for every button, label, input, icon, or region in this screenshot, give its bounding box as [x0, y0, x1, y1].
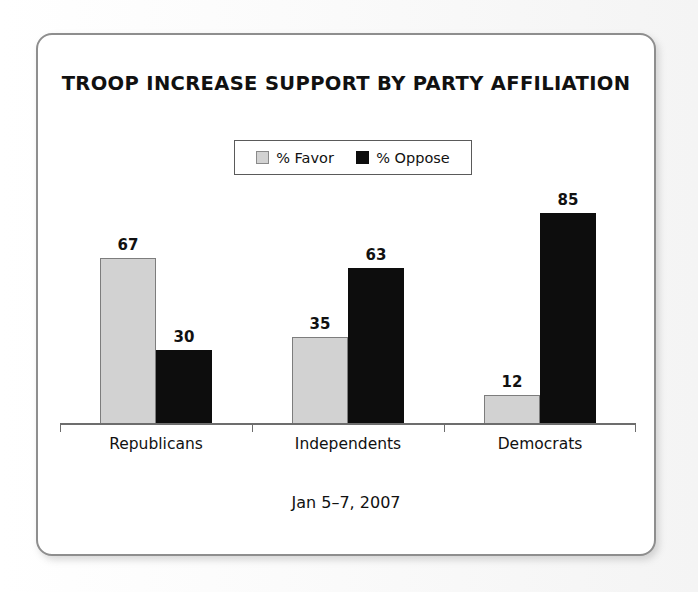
- bar-independents-oppose: 63: [348, 185, 404, 425]
- legend-swatch-oppose-icon: [356, 151, 369, 164]
- bar-group-republicans: 67 30: [60, 185, 252, 425]
- bar-rect-favor: [484, 395, 540, 425]
- category-label-independents: Independents: [252, 435, 444, 453]
- chart-card-frame: TROOP INCREASE SUPPORT BY PARTY AFFILIAT…: [36, 33, 656, 556]
- legend-label-oppose: % Oppose: [376, 150, 450, 166]
- legend-swatch-favor-icon: [256, 151, 269, 164]
- bar-rect-oppose: [156, 350, 212, 425]
- chart-date-footnote: Jan 5–7, 2007: [38, 493, 654, 512]
- bar-value-label: 85: [558, 193, 579, 208]
- bar-value-label: 30: [174, 330, 195, 345]
- bar-rect-oppose: [540, 213, 596, 425]
- bar-rect-favor: [100, 258, 156, 425]
- axis-tick-1: [252, 424, 253, 432]
- chart-legend: % Favor % Oppose: [234, 140, 472, 175]
- bar-rect-favor: [292, 337, 348, 425]
- bar-republicans-oppose: 30: [156, 185, 212, 425]
- bar-value-label: 35: [310, 317, 331, 332]
- axis-tick-2: [444, 424, 445, 432]
- bar-republicans-favor: 67: [100, 185, 156, 425]
- plot-area: 67 30 35 63: [60, 185, 636, 425]
- bar-groups: 67 30 35 63: [60, 185, 636, 425]
- bar-democrats-oppose: 85: [540, 185, 596, 425]
- legend-item-favor: % Favor: [256, 150, 334, 166]
- bar-group-democrats: 12 85: [444, 185, 636, 425]
- page-title: TROOP INCREASE SUPPORT BY PARTY AFFILIAT…: [38, 72, 654, 95]
- bar-value-label: 67: [118, 238, 139, 253]
- category-label-democrats: Democrats: [444, 435, 636, 453]
- axis-tick-start: [60, 424, 61, 432]
- legend-item-oppose: % Oppose: [356, 150, 450, 166]
- x-axis-line: [60, 423, 636, 425]
- bar-democrats-favor: 12: [484, 185, 540, 425]
- bar-rect-oppose: [348, 268, 404, 425]
- bar-group-independents: 35 63: [252, 185, 444, 425]
- x-axis-category-labels: Republicans Independents Democrats: [60, 435, 636, 453]
- axis-tick-end: [635, 424, 636, 432]
- category-label-republicans: Republicans: [60, 435, 252, 453]
- bar-value-label: 12: [502, 375, 523, 390]
- bar-value-label: 63: [366, 248, 387, 263]
- legend-label-favor: % Favor: [276, 150, 334, 166]
- bar-independents-favor: 35: [292, 185, 348, 425]
